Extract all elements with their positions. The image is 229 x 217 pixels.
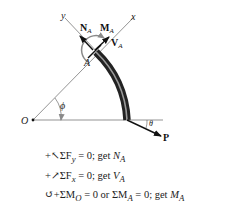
label-angle-theta: θ xyxy=(149,120,153,128)
shear-force-arrow xyxy=(95,37,109,50)
equilibrium-equations: +↖ΣFy = 0; get NA +↗ΣFx = 0; get VA ↺+ΣM… xyxy=(45,148,184,207)
label-normal-force: NA xyxy=(80,23,92,35)
label-axis-x: x xyxy=(131,12,135,22)
equation-sum-fx: +↗ΣFx = 0; get VA xyxy=(45,168,184,188)
label-angle-phi: ϕ xyxy=(60,101,65,111)
equation-sum-fy: +↖ΣFy = 0; get NA xyxy=(45,148,184,168)
label-origin: O xyxy=(21,116,28,126)
label-force-P: P xyxy=(163,133,169,143)
origin-point xyxy=(32,119,35,122)
free-body-diagram xyxy=(0,0,229,145)
label-moment: MA xyxy=(100,23,114,35)
curved-bar xyxy=(96,52,127,120)
equation-sum-moments: ↺+ΣMO = 0 or ΣMA = 0; get MA xyxy=(45,187,184,207)
force-P-arrow xyxy=(127,120,161,136)
label-shear-force: VA xyxy=(111,38,123,50)
theta-angle-arc xyxy=(146,120,147,128)
label-axis-y: y xyxy=(61,11,65,21)
label-point-A: A xyxy=(84,58,90,68)
